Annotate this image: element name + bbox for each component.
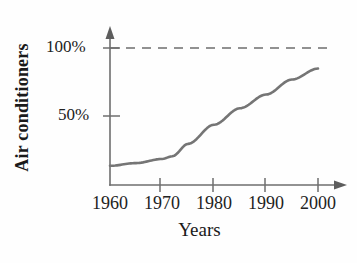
y-axis-title: Air conditioners <box>0 0 44 215</box>
y-axis-arrow-icon <box>106 26 115 39</box>
x-tick-label-1980: 1980 <box>196 193 232 214</box>
x-tick-label-1990: 1990 <box>248 193 284 214</box>
x-axis-arrow-icon <box>334 181 347 190</box>
y-axis-title-text: Air conditioners <box>12 43 33 171</box>
chart-figure: Air conditioners 100% 50% 1960 1970 1980… <box>0 0 357 263</box>
x-tick-label-2000: 2000 <box>300 193 336 214</box>
y-tick-label-100: 100% <box>46 38 86 55</box>
x-tick-label-1960: 1960 <box>92 193 128 214</box>
y-tick-label-50: 50% <box>58 106 89 123</box>
x-axis-title: Years <box>0 219 357 241</box>
x-tick-label-1970: 1970 <box>144 193 180 214</box>
air-conditioners-series <box>110 69 318 166</box>
x-tick-label-group: 1960 1970 1980 1990 2000 <box>0 193 357 217</box>
